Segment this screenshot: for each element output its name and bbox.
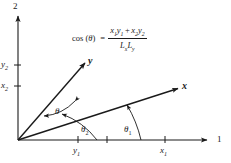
equation-cos: cos [72, 33, 83, 43]
theta2-label: θ2 [81, 125, 88, 136]
tick-label-y1: y1 [73, 146, 80, 157]
tick-label-x1: x1 [160, 146, 167, 157]
num-y2-sub: 2 [142, 31, 145, 37]
theta-arc [44, 101, 75, 116]
y-vector-label: y [88, 56, 92, 66]
theta2-label-sub: 2 [85, 130, 88, 136]
theta2-arc [62, 114, 97, 140]
tick-label-y1-sub: 1 [77, 151, 80, 157]
axis-2-label: 2 [13, 2, 18, 11]
theta1-label: θ1 [124, 125, 131, 136]
equation-numerator: x1y1+x2y2 [108, 25, 146, 38]
tick-label-x2: x2 [1, 81, 8, 92]
x-vector-arrow [18, 89, 178, 141]
tick-label-x2-sub: 2 [5, 86, 8, 92]
tick-label-y2-sub: 2 [5, 65, 8, 71]
equation-equals: = [100, 33, 105, 43]
equation-lhs: cos (θ) [72, 33, 95, 43]
cosine-equation: cos (θ) = x1y1+x2y2 LxLy [72, 25, 147, 51]
equation-denominator: LxLy [118, 39, 137, 52]
vector-angle-figure: 2 1 y2 x2 y1 x1 y x θ θ2 θ1 cos (θ) = x1… [0, 0, 231, 163]
tick-label-y2: y2 [1, 60, 8, 71]
axis-1-label: 1 [217, 135, 222, 144]
x-vector-label: x [182, 81, 187, 91]
theta1-label-sub: 1 [128, 130, 131, 136]
den-Ly-sub: y [132, 45, 135, 51]
theta-label-base: θ [55, 106, 59, 116]
axis-2-vertical [14, 16, 21, 140]
tick-label-x1-sub: 1 [164, 151, 167, 157]
theta-label: θ [55, 107, 59, 116]
axis-1-horizontal [18, 136, 207, 143]
equation-fraction: x1y1+x2y2 LxLy [108, 25, 146, 51]
equation-close-paren: ) [93, 33, 96, 43]
